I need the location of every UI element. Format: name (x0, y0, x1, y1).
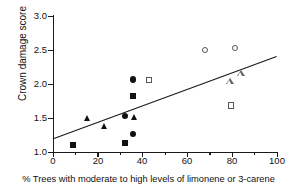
y-tick-1.5 (48, 118, 53, 119)
data-point-filled-circle (122, 113, 128, 119)
y-axis-title: Crown damage score (17, 0, 28, 124)
x-tick-label-60: 60 (172, 156, 202, 166)
x-tick-label-20: 20 (83, 156, 113, 166)
data-point-open-square (146, 77, 152, 83)
scatter-plot-figure: 3.0 2.5 2.0 1.5 1.0 0 20 40 60 80 100 Cr… (0, 0, 297, 191)
y-axis-line (53, 15, 54, 153)
data-point-open-circle (232, 45, 238, 51)
data-point-filled-square (70, 142, 76, 148)
y-tick-label-3.0: 3.0 (34, 11, 47, 21)
data-point-open-square (228, 102, 234, 108)
data-point-filled-square (130, 93, 136, 99)
x-tick-minor-10 (75, 152, 76, 155)
y-tick-label-1.5: 1.5 (34, 113, 47, 123)
data-point-filled-triangle (84, 115, 90, 121)
x-tick-label-0: 0 (38, 156, 68, 166)
data-point-filled-circle (130, 131, 136, 137)
data-point-filled-triangle (101, 123, 107, 129)
x-tick-minor-30 (120, 152, 121, 155)
x-tick-label-80: 80 (217, 156, 247, 166)
x-tick-minor-50 (165, 152, 166, 155)
x-tick-label-40: 40 (127, 156, 157, 166)
data-point-filled-triangle (131, 114, 137, 120)
data-point-open-triangle (237, 70, 245, 76)
data-point-filled-circle (130, 76, 136, 82)
x-axis-title: % Trees with moderate to high levels of … (0, 174, 297, 184)
data-point-filled-square (122, 140, 128, 146)
y-tick-label-2.5: 2.5 (34, 45, 47, 55)
data-point-open-triangle (226, 78, 234, 84)
x-tick-minor-90 (254, 152, 255, 155)
y-tick-2.5 (48, 50, 53, 51)
y-tick-3.0 (48, 16, 53, 17)
y-tick-label-2.0: 2.0 (34, 79, 47, 89)
x-tick-label-100: 100 (262, 156, 292, 166)
data-point-open-circle (202, 47, 208, 53)
x-tick-minor-70 (209, 152, 210, 155)
y-tick-2.0 (48, 84, 53, 85)
